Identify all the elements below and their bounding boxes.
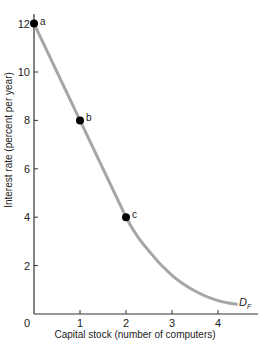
demand-curve (34, 24, 236, 305)
x-tick-label: 1 (77, 317, 83, 329)
demand-for-capital-chart: 24681012 1234 0 Capital stock (number of… (0, 0, 269, 352)
point-a (30, 20, 38, 28)
x-tick-label: 4 (215, 317, 221, 329)
y-tick-label: 8 (24, 114, 30, 126)
y-tick-label: 10 (18, 66, 30, 78)
x-ticks: 1234 (77, 310, 221, 329)
x-tick-label: 2 (123, 317, 129, 329)
curve-label: DF (239, 296, 252, 310)
origin-label: 0 (24, 317, 30, 329)
point-label-b: b (86, 112, 92, 123)
y-tick-label: 4 (24, 211, 30, 223)
point-c (122, 213, 130, 221)
point-label-c: c (132, 209, 137, 220)
y-axis-title: Interest rate (percent per year) (3, 72, 14, 208)
y-tick-label: 12 (18, 18, 30, 30)
point-b (76, 116, 84, 124)
x-axis-title: Capital stock (number of computers) (54, 329, 215, 340)
y-tick-label: 6 (24, 163, 30, 175)
y-ticks: 24681012 (18, 18, 38, 272)
y-tick-label: 2 (24, 260, 30, 272)
x-tick-label: 3 (169, 317, 175, 329)
point-label-a: a (40, 16, 46, 27)
